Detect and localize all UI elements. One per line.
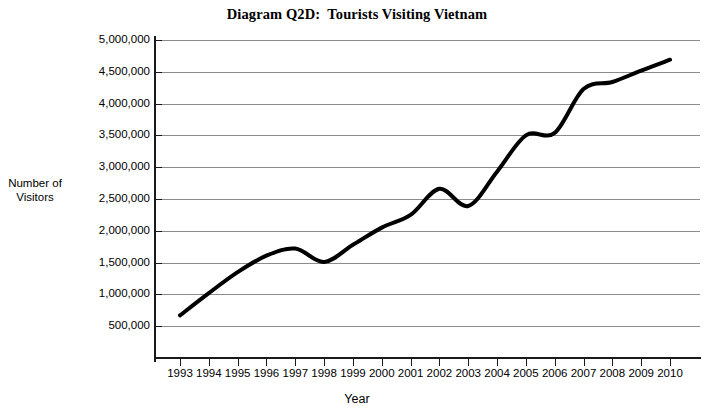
x-axis-tick-mark — [439, 359, 440, 366]
y-axis-tick-mark — [155, 199, 162, 200]
x-axis-tick-mark — [295, 359, 296, 366]
y-axis-tick-label: 1,500,000 — [64, 257, 150, 268]
y-axis-tick-mark — [155, 104, 162, 105]
gridline — [155, 40, 700, 41]
x-axis-tick-mark — [324, 359, 325, 366]
gridline — [155, 231, 700, 232]
y-axis-tick-mark — [155, 326, 162, 327]
x-axis-tick-label: 2010 — [650, 367, 690, 379]
y-axis-tick-label: 4,000,000 — [64, 98, 150, 109]
y-axis-tick-mark — [155, 294, 162, 295]
plot-area — [155, 40, 700, 358]
y-axis-tick-label: 1,000,000 — [64, 288, 150, 299]
gridline — [155, 72, 700, 73]
x-axis-tick-mark — [238, 359, 239, 366]
gridline — [155, 326, 700, 327]
x-axis-tick-mark — [670, 359, 671, 366]
x-axis-tick-mark — [180, 359, 181, 366]
y-axis-tick-mark — [155, 40, 162, 41]
x-axis-tick-mark — [641, 359, 642, 366]
gridline — [155, 263, 700, 264]
y-axis-tick-label: 3,500,000 — [64, 129, 150, 140]
y-axis-tick-label: 500,000 — [64, 320, 150, 331]
x-axis-tick-mark — [382, 359, 383, 366]
x-axis-tick-mark — [584, 359, 585, 366]
y-axis-tick-label: 2,000,000 — [64, 225, 150, 236]
y-axis-tick-mark — [155, 231, 162, 232]
y-axis-tick-mark — [155, 72, 162, 73]
x-axis-tick-mark — [353, 359, 354, 366]
x-axis-title: Year — [0, 392, 714, 406]
x-axis-tick-mark — [526, 359, 527, 366]
x-axis-tick-mark — [497, 359, 498, 366]
gridline — [155, 135, 700, 136]
x-axis-tick-mark — [612, 359, 613, 366]
y-axis-tick-labels: 5,000,0004,500,0004,000,0003,500,0003,00… — [58, 0, 150, 416]
y-axis-tick-mark — [155, 263, 162, 264]
x-axis-tick-mark — [266, 359, 267, 366]
y-axis-tick-mark — [155, 167, 162, 168]
gridline — [155, 199, 700, 200]
chart-page: Diagram Q2D: Tourists Visiting Vietnam N… — [0, 0, 714, 416]
y-axis-tick-label: 4,500,000 — [64, 66, 150, 77]
y-axis-tick-label: 2,500,000 — [64, 193, 150, 204]
gridline — [155, 167, 700, 168]
gridline — [155, 294, 700, 295]
x-axis-tick-mark — [468, 359, 469, 366]
x-axis-tick-mark — [209, 359, 210, 366]
gridline — [155, 104, 700, 105]
y-axis-tick-label: 3,000,000 — [64, 161, 150, 172]
x-axis-tick-mark — [555, 359, 556, 366]
y-axis-tick-label: 5,000,000 — [64, 34, 150, 45]
y-axis-tick-mark — [155, 135, 162, 136]
x-axis-tick-mark — [411, 359, 412, 366]
